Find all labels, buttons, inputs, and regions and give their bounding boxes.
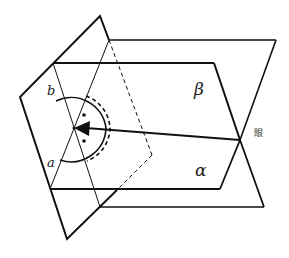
dihedral-angle-diagram: β α b a 眼 [0,0,289,258]
angle-lines [50,40,109,207]
label-beta: β [193,79,204,99]
label-alpha: α [195,160,207,180]
line-b [53,63,100,207]
dot-lower [82,139,86,143]
label-a: a [47,155,55,170]
label-eye: 眼 [254,128,263,138]
dot-upper [82,113,86,117]
plane-alpha [50,140,264,207]
label-b: b [47,83,55,98]
view-arrow [74,121,240,140]
